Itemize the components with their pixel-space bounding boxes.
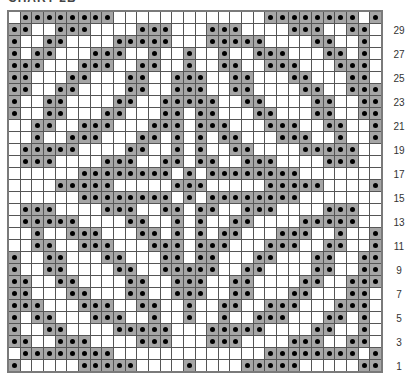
stitch-cell-empty (102, 84, 113, 95)
stitch-cell-empty (56, 288, 67, 299)
stitch-cell-empty (359, 144, 370, 155)
stitch-cell-filled (196, 216, 207, 227)
stitch-cell-empty (137, 12, 148, 23)
stitch-cell-empty (324, 84, 335, 95)
stitch-cell-empty (300, 156, 311, 167)
stitch-cell-empty (21, 108, 32, 119)
stitch-cell-filled (149, 48, 160, 59)
stitch-cell-filled (9, 276, 20, 287)
stitch-cell-filled (44, 108, 55, 119)
stitch-cell-filled (335, 120, 346, 131)
stitch-cell-filled (21, 348, 32, 359)
stitch-cell-empty (137, 312, 148, 323)
row-label: 13 (388, 217, 410, 229)
stitch-cell-empty (312, 120, 323, 131)
stitch-cell-empty (312, 168, 323, 179)
stitch-cell-filled (114, 360, 125, 371)
stitch-cell-empty (32, 276, 43, 287)
stitch-cell-empty (242, 252, 253, 263)
stitch-cell-empty (254, 132, 265, 143)
stitch-cell-empty (312, 288, 323, 299)
stitch-cell-filled (265, 48, 276, 59)
stitch-cell-empty (370, 336, 381, 347)
stitch-cell-empty (312, 192, 323, 203)
stitch-cell-filled (9, 252, 20, 263)
stitch-cell-empty (114, 72, 125, 83)
stitch-cell-filled (102, 48, 113, 59)
stitch-cell-empty (254, 300, 265, 311)
stitch-cell-empty (254, 120, 265, 131)
stitch-cell-filled (9, 324, 20, 335)
stitch-cell-filled (265, 108, 276, 119)
stitch-cell-filled (67, 132, 78, 143)
stitch-cell-empty (32, 84, 43, 95)
stitch-cell-empty (277, 24, 288, 35)
stitch-cell-filled (370, 264, 381, 275)
stitch-cell-filled (9, 312, 20, 323)
stitch-cell-filled (230, 144, 241, 155)
stitch-cell-empty (126, 348, 137, 359)
stitch-cell-filled (172, 240, 183, 251)
stitch-cell-empty (184, 12, 195, 23)
stitch-cell-empty (114, 132, 125, 143)
stitch-cell-empty (9, 240, 20, 251)
stitch-cell-empty (56, 192, 67, 203)
stitch-cell-empty (137, 96, 148, 107)
stitch-cell-filled (207, 336, 218, 347)
row-label: 25 (388, 73, 410, 85)
stitch-cell-filled (289, 336, 300, 347)
stitch-cell-empty (370, 72, 381, 83)
stitch-cell-filled (196, 252, 207, 263)
stitch-cell-filled (126, 84, 137, 95)
stitch-cell-empty (161, 72, 172, 83)
stitch-cell-filled (324, 12, 335, 23)
stitch-cell-empty (219, 180, 230, 191)
stitch-cell-filled (56, 348, 67, 359)
stitch-cell-filled (91, 120, 102, 131)
stitch-cell-filled (219, 300, 230, 311)
stitch-cell-empty (32, 288, 43, 299)
stitch-cell-filled (254, 96, 265, 107)
stitch-cell-empty (196, 60, 207, 71)
stitch-cell-filled (56, 12, 67, 23)
stitch-cell-filled (21, 336, 32, 347)
stitch-cell-filled (196, 72, 207, 83)
stitch-cell-empty (102, 276, 113, 287)
stitch-cell-empty (56, 240, 67, 251)
stitch-cell-filled (161, 168, 172, 179)
stitch-cell-empty (91, 24, 102, 35)
stitch-cell-filled (67, 24, 78, 35)
stitch-cell-filled (254, 36, 265, 47)
stitch-cell-filled (126, 204, 137, 215)
stitch-cell-empty (91, 324, 102, 335)
stitch-cell-filled (359, 336, 370, 347)
stitch-cell-filled (347, 156, 358, 167)
row-label: 27 (388, 49, 410, 61)
stitch-cell-empty (265, 216, 276, 227)
stitch-cell-filled (230, 276, 241, 287)
stitch-cell-empty (289, 84, 300, 95)
stitch-cell-empty (265, 72, 276, 83)
stitch-cell-empty (79, 276, 90, 287)
stitch-cell-filled (207, 204, 218, 215)
stitch-cell-filled (161, 36, 172, 47)
stitch-cell-empty (161, 12, 172, 23)
stitch-cell-filled (102, 300, 113, 311)
stitch-cell-filled (114, 204, 125, 215)
stitch-cell-empty (347, 192, 358, 203)
stitch-cell-empty (324, 336, 335, 347)
stitch-cell-filled (230, 336, 241, 347)
stitch-cell-filled (347, 24, 358, 35)
stitch-cell-filled (9, 336, 20, 347)
row-label: 1 (388, 361, 410, 373)
stitch-cell-empty (137, 348, 148, 359)
stitch-cell-filled (44, 324, 55, 335)
stitch-cell-filled (207, 192, 218, 203)
stitch-cell-filled (219, 240, 230, 251)
stitch-cell-filled (172, 180, 183, 191)
stitch-cell-filled (242, 168, 253, 179)
stitch-cell-empty (32, 24, 43, 35)
stitch-cell-empty (21, 36, 32, 47)
stitch-cell-filled (196, 120, 207, 131)
stitch-cell-filled (91, 240, 102, 251)
